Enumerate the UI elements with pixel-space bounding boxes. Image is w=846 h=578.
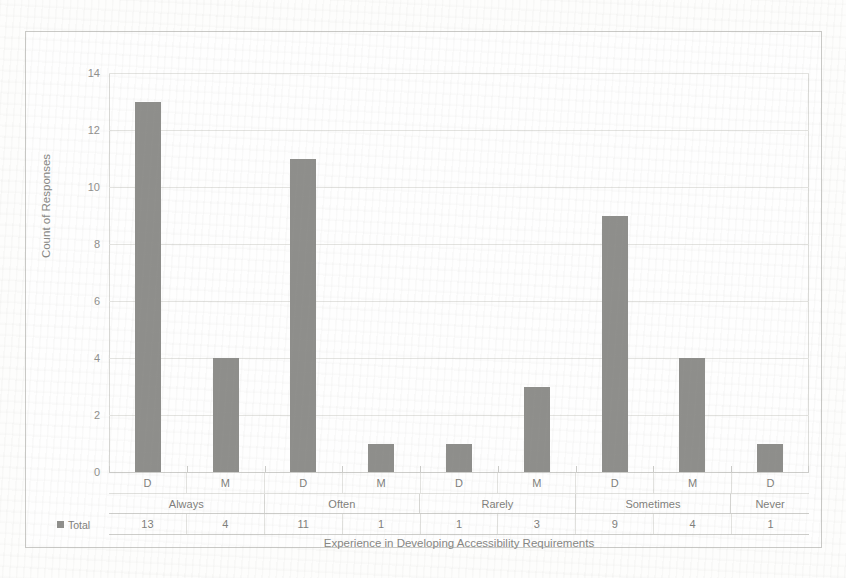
bar: [290, 159, 316, 473]
bar: [446, 444, 472, 473]
table-cell-total: 1: [421, 514, 499, 534]
table-cell-group: Sometimes: [576, 494, 732, 513]
table-cell-subcategory: M: [187, 473, 265, 493]
gridline-6: [109, 301, 809, 302]
table-cell-total: 13: [109, 514, 187, 534]
bar: [368, 444, 394, 473]
y-tick-label-6: 6: [94, 295, 100, 307]
gridline-10: [109, 187, 809, 188]
table-cell-group: Often: [265, 494, 421, 513]
legend-total: Total: [51, 514, 109, 535]
table-cell-total: 11: [265, 514, 343, 534]
table-cell-subcategory: M: [654, 473, 732, 493]
table-cell-subcategory: M: [498, 473, 576, 493]
bar: [602, 216, 628, 473]
table-row-group: AlwaysOftenRarelySometimesNever: [109, 494, 809, 514]
chart-frame: 02468101214 Count of Responses Total DMD…: [25, 31, 822, 548]
y-tick-label-2: 2: [94, 409, 100, 421]
bar: [135, 102, 161, 473]
table-cell-subcategory: D: [265, 473, 343, 493]
y-tick-label-0: 0: [94, 466, 100, 478]
y-axis-title: Count of Responses: [40, 126, 52, 286]
table-cell-total: 3: [498, 514, 576, 534]
table-cell-total: 4: [654, 514, 732, 534]
table-cell-subcategory: D: [576, 473, 654, 493]
table-cell-group: Rarely: [420, 494, 576, 513]
x-axis-title: Experience in Developing Accessibility R…: [109, 537, 809, 549]
table-cell-subcategory: M: [343, 473, 421, 493]
gridline-14: [109, 73, 809, 74]
table-row-total: 13411113941: [109, 514, 809, 535]
table-cell-subcategory: D: [421, 473, 499, 493]
y-tick-label-10: 10: [88, 181, 100, 193]
y-tick-label-8: 8: [94, 238, 100, 250]
gridline-8: [109, 244, 809, 245]
plot-area: [109, 73, 809, 472]
table-cell-total: 9: [576, 514, 654, 534]
bar: [213, 358, 239, 472]
data-table: Total DMDMDMDMD AlwaysOftenRarelySometim…: [109, 472, 809, 534]
y-axis-tick-labels: 02468101214: [66, 73, 100, 472]
table-cell-group: Always: [109, 494, 265, 513]
bar: [679, 358, 705, 472]
table-cell-total: 4: [187, 514, 265, 534]
legend-label: Total: [68, 519, 90, 531]
legend-swatch-icon: [57, 521, 64, 528]
table-cell-total: 1: [343, 514, 421, 534]
y-tick-label-4: 4: [94, 352, 100, 364]
table-cell-total: 1: [732, 514, 809, 534]
y-tick-label-14: 14: [88, 67, 100, 79]
plot-right-spine: [808, 73, 809, 472]
y-axis-spine: [109, 73, 110, 472]
y-tick-label-12: 12: [88, 124, 100, 136]
table-cell-subcategory: D: [732, 473, 809, 493]
table-cell-subcategory: D: [109, 473, 187, 493]
bar: [757, 444, 783, 473]
table-row-subcategory: DMDMDMDMD: [109, 473, 809, 494]
table-cell-group: Never: [731, 494, 809, 513]
gridline-12: [109, 130, 809, 131]
bar: [524, 387, 550, 473]
